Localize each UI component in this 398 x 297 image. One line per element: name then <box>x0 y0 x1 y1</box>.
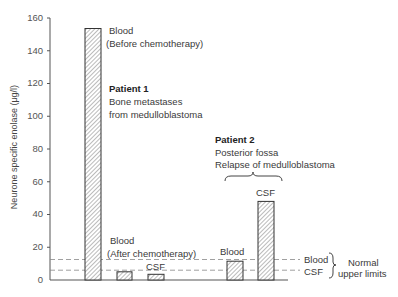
ref-label-blood: Blood <box>304 254 328 265</box>
patient2-line1: Posterior fossa <box>215 147 278 158</box>
bar-p1-blood-before <box>85 29 101 281</box>
label-bar4: Blood <box>220 246 244 257</box>
normal-limits-line1: Normal <box>348 257 379 268</box>
ytick-120: 120 <box>17 77 43 88</box>
label-bar3: CSF <box>146 261 165 272</box>
label-bar1-line1: Blood <box>109 25 133 36</box>
label-bar1-line2: (Before chemotherapy) <box>106 38 203 49</box>
normal-limits-line2: upper limits <box>338 268 387 279</box>
bar-p2-blood <box>227 261 243 280</box>
ytick-100: 100 <box>17 110 43 121</box>
ytick-140: 140 <box>17 45 43 56</box>
ytick-60: 60 <box>17 176 43 187</box>
patient1-title: Patient 1 <box>109 83 149 94</box>
patient1-line1: Bone metastases <box>109 96 182 107</box>
label-bar5: CSF <box>256 187 275 198</box>
patient2-title: Patient 2 <box>215 134 255 145</box>
label-bar2-line2: (After chemotherapy) <box>107 248 196 259</box>
ytick-0: 0 <box>17 274 43 285</box>
ref-label-csf: CSF <box>304 266 323 277</box>
y-axis <box>47 18 50 280</box>
bar-p1-csf <box>148 274 164 280</box>
ytick-160: 160 <box>17 12 43 23</box>
ytick-20: 20 <box>17 241 43 252</box>
normal-limits-brace <box>329 253 336 278</box>
ytick-80: 80 <box>17 143 43 154</box>
ytick-40: 40 <box>17 208 43 219</box>
y-axis-label: Neurone specific enolase (μg/l) <box>9 77 19 217</box>
patient1-line2: from medulloblastoma <box>109 109 202 120</box>
label-bar2-line1: Blood <box>110 235 134 246</box>
patient2-brace <box>225 172 282 181</box>
bar-p2-csf <box>258 201 274 280</box>
patient2-line2: Relapse of medulloblastoma <box>215 159 335 170</box>
bar-p1-blood-after <box>117 272 132 280</box>
